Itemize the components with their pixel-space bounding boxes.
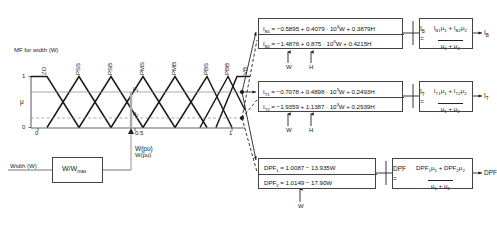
it-input-w-label: W	[286, 127, 292, 133]
width-input-label: Width (W)	[10, 163, 37, 169]
it-input-h-label: H	[309, 127, 313, 133]
mf-y-axis-label: μ	[20, 98, 24, 105]
it-defuzz-denominator: μ1 + μ2	[438, 103, 463, 112]
y-tick-0: 0	[22, 124, 25, 130]
mu1-level-label: μ1	[133, 85, 138, 93]
dpf-defuzz-denominator: μ1 + μ2	[428, 180, 453, 189]
it2-rhs2: W + 0.2939H	[339, 103, 375, 110]
normalization-box[interactable]: W/Wmax	[52, 157, 103, 183]
normalization-label: W/W	[62, 165, 77, 172]
dpf-defuzz-box[interactable]: DPF = DPF1μ1 + DPF2μ2 μ1 + μ2	[392, 158, 473, 189]
mf-curves	[31, 77, 250, 128]
mu1-fanout	[242, 32, 256, 160]
mf-x-axis-label: W(pu)	[135, 145, 153, 152]
it-rule-box[interactable]: IT1 = −0.7078 + 0.4898 · 103W + 0.2493H …	[258, 81, 403, 112]
it-output-label: IT	[484, 92, 489, 101]
defuzz-output-arrows	[473, 33, 482, 173]
mf-label-vb: VB	[242, 67, 248, 75]
dpf2-lhs: DPF	[264, 179, 276, 186]
mf-label-zo: ZO	[41, 67, 47, 75]
ib-input-w-label: W	[286, 64, 292, 70]
it-defuzz-lhs: IT =	[420, 88, 427, 104]
dpf-defuzz-lhs: DPF =	[393, 165, 407, 181]
it-defuzz-numerator: IT1μ1 + IT2μ2	[431, 87, 470, 95]
x-tick-1: 1	[229, 130, 232, 136]
mf-label-pms: PMS	[139, 62, 145, 75]
mf-label-pss: PSS	[75, 63, 81, 75]
ib2-rhs: = −1.4876 + 0.875 · 10	[270, 40, 333, 47]
ib-defuzz-lhs: IB =	[420, 25, 427, 41]
it1-rhs2: W + 0.2493H	[339, 88, 375, 95]
mf-chart-title: MF for width (W)	[14, 47, 58, 53]
it-defuzz-box[interactable]: IT = IT1μ1 + IT2μ2 μ1 + μ2	[419, 81, 473, 112]
dpf1-rhs: = 1.0087 − 13.935W	[279, 164, 336, 171]
ib1-rhs: = −0.5895 + 0.4079 · 10	[270, 25, 337, 32]
it-defuzz-fraction: IT1μ1 + IT2μ2 μ1 + μ2	[429, 79, 473, 115]
dpf-rule-divider	[259, 174, 377, 175]
it2-rhs: = −1.9359 + 1.1387 · 10	[270, 103, 337, 110]
y-tick-1: 1	[22, 73, 25, 79]
ib2-rhs2: W + 0.4215H	[336, 40, 372, 47]
x-tick-0: 0	[35, 130, 38, 136]
it-rule-divider	[259, 97, 404, 98]
ib-defuzz-denominator: μ1 + μ2	[438, 40, 463, 49]
ib-output-label: IB	[484, 29, 489, 38]
ib-rule-box[interactable]: IB1 = −0.5895 + 0.4079 · 103W + 0.3879H …	[258, 18, 403, 49]
x-tick-0p5: 0.5	[135, 130, 143, 136]
mu2-level-label: μ2	[133, 110, 138, 118]
mf-label-pmb: PMB	[171, 62, 177, 75]
it1-rhs: = −0.7078 + 0.4898 · 10	[270, 88, 337, 95]
ib-rule-divider	[259, 34, 404, 35]
dpf2-rhs: = 1.0149 − 17.90W	[279, 179, 332, 186]
ib-defuzz-numerator: IB1μ1 + IB2μ2	[431, 24, 470, 32]
dpf-defuzz-fraction: DPF1μ1 + DPF2μ2 μ1 + μ2	[409, 156, 472, 192]
mf-label-psb: PSB	[107, 63, 113, 75]
mf-label-pbb: PBB	[224, 63, 230, 75]
dpf1-lhs: DPF	[264, 164, 276, 171]
ib-input-h-label: H	[309, 64, 313, 70]
ib-defuzz-fraction: IB1μ1 + IB2μ2 μ1 + μ2	[429, 16, 472, 52]
dpf-input-w-label: W	[298, 203, 304, 209]
normalization-label-sub: max	[77, 168, 86, 174]
wpu-label: W(pu)	[135, 152, 151, 158]
ib1-rhs2: W + 0.3879H	[339, 25, 375, 32]
dpf-output-label: DPF	[484, 169, 497, 178]
ib-defuzz-box[interactable]: IB = IB1μ1 + IB2μ2 μ1 + μ2	[419, 18, 473, 49]
dpf-rule-box[interactable]: DPF1 = 1.0087 − 13.935W DPF2 = 1.0149 − …	[258, 158, 376, 189]
mf-label-pbs: PBS	[203, 63, 209, 75]
dpf-defuzz-numerator: DPF1μ1 + DPF2μ2	[413, 164, 468, 172]
